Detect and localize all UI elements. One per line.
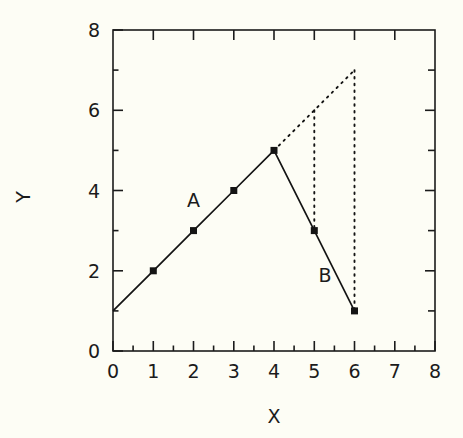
marker-4-5 xyxy=(271,147,278,154)
marker-1-2 xyxy=(150,267,157,274)
x-axis-title: X xyxy=(267,405,280,427)
series-label-b: B xyxy=(318,264,331,286)
x-axis-ticks xyxy=(113,341,435,351)
y-tick-label-6: 6 xyxy=(88,99,100,121)
series-label-a: A xyxy=(187,189,200,211)
x-tick-label-8: 8 xyxy=(429,360,441,382)
y-tick-label-2: 2 xyxy=(88,260,100,282)
x-tick-label-4: 4 xyxy=(268,360,280,382)
y-axis-title: Y xyxy=(12,191,34,204)
y-tick-labels: 0 2 4 6 8 xyxy=(88,19,100,362)
x-tick-label-3: 3 xyxy=(228,360,240,382)
x-tick-label-1: 1 xyxy=(147,360,159,382)
x-tick-labels: 0 1 2 3 4 5 6 7 8 xyxy=(107,360,441,382)
marker-3-4 xyxy=(230,187,237,194)
marker-5-3 xyxy=(311,227,318,234)
line-chart-canvas: 0 1 2 3 4 5 6 7 8 0 2 4 6 8 xyxy=(0,0,463,438)
y-tick-label-4: 4 xyxy=(88,180,100,202)
chart-figure: 0 1 2 3 4 5 6 7 8 0 2 4 6 8 xyxy=(0,0,463,438)
plot-frame xyxy=(113,30,435,351)
marker-2-3 xyxy=(190,227,197,234)
y-tick-label-0: 0 xyxy=(88,340,100,362)
marker-6-1 xyxy=(351,307,358,314)
x-tick-label-0: 0 xyxy=(107,360,119,382)
x-tick-label-5: 5 xyxy=(308,360,320,382)
y-tick-label-8: 8 xyxy=(88,19,100,41)
data-point-markers xyxy=(150,147,358,315)
x-tick-label-2: 2 xyxy=(187,360,199,382)
y-axis-ticks-right xyxy=(425,70,435,311)
x-tick-label-7: 7 xyxy=(389,360,401,382)
x-axis-ticks-top xyxy=(153,30,394,40)
x-tick-label-6: 6 xyxy=(348,360,360,382)
